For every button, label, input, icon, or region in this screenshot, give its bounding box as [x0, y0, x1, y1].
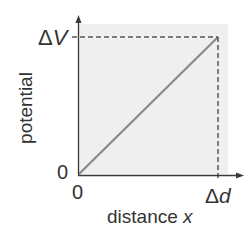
y-origin-label: 0: [57, 161, 68, 184]
x-max-var: d: [219, 184, 231, 207]
y-axis-arrow-icon: [76, 15, 82, 23]
x-axis-title: distance x: [107, 206, 193, 228]
y-axis-title-text: potential: [15, 72, 36, 144]
x-max-label: Δd: [205, 184, 231, 208]
x-axis-title-word: distance: [107, 206, 178, 227]
y-max-var: V: [53, 25, 68, 50]
y-max-label: ΔV: [38, 25, 67, 51]
y-axis-title: potential: [15, 72, 37, 144]
delta-symbol: Δ: [205, 184, 219, 207]
x-origin-label: 0: [72, 181, 83, 204]
x-axis-arrow-icon: [236, 173, 244, 179]
delta-symbol: Δ: [38, 25, 53, 50]
x-axis-title-var: x: [183, 206, 193, 227]
